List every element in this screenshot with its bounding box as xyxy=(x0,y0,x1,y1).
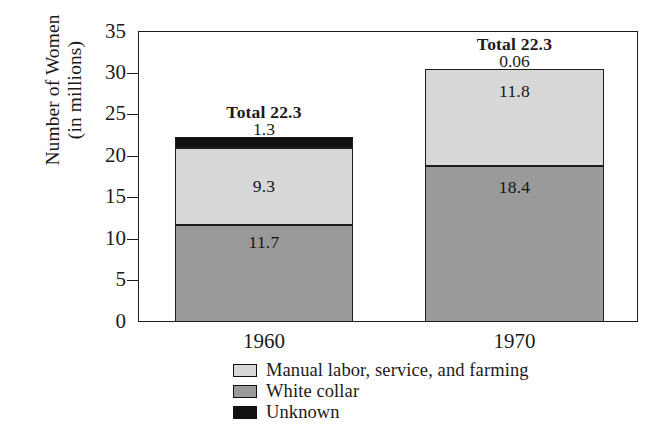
y-tick-5: 5 xyxy=(52,280,126,281)
y-tick-label-15: 15 xyxy=(82,186,126,207)
stacked-bar-1970[interactable]: 11.8 18.4 xyxy=(425,69,604,322)
legend-swatch-white-collar-icon xyxy=(233,385,257,398)
legend-label-manual-labor: Manual labor, service, and farming xyxy=(266,361,529,380)
bar-unknown-value-1970: 0.06 xyxy=(425,52,604,70)
y-tick-label-10: 10 xyxy=(82,228,126,249)
legend-swatch-unknown-icon xyxy=(233,406,257,419)
y-tick-35: 35 xyxy=(52,32,126,33)
stacked-bar-1960[interactable]: 9.3 11.7 xyxy=(175,137,353,322)
chart-legend: Manual labor, service, and farming White… xyxy=(233,360,529,423)
legend-item-unknown[interactable]: Unknown xyxy=(233,402,529,423)
y-tick-label-20: 20 xyxy=(82,145,126,166)
y-tick-20: 20 xyxy=(52,156,126,157)
y-tick-25: 25 xyxy=(52,114,126,115)
bar-segment-manual-label-1970: 11.8 xyxy=(499,83,530,101)
x-tick-label-1970: 1970 xyxy=(425,331,604,352)
y-tick-label-0: 0 xyxy=(82,311,126,332)
bar-segment-white-collar-label-1960: 11.7 xyxy=(249,234,280,252)
bar-segment-white-collar-label-1970: 18.4 xyxy=(499,179,530,197)
bar-segment-manual-1960[interactable]: 9.3 xyxy=(175,148,353,225)
y-tick-10: 10 xyxy=(52,239,126,240)
bar-unknown-value-1960: 1.3 xyxy=(175,120,353,138)
y-tick-label-30: 30 xyxy=(82,62,126,83)
x-tick-label-1960: 1960 xyxy=(175,331,353,352)
bar-segment-manual-1970[interactable]: 11.8 xyxy=(425,69,604,166)
y-tick-label-35: 35 xyxy=(82,21,126,42)
legend-label-unknown: Unknown xyxy=(266,403,340,422)
y-tick-30: 30 xyxy=(52,73,126,74)
y-tick-label-5: 5 xyxy=(82,269,126,290)
legend-swatch-manual-labor-icon xyxy=(233,364,257,377)
bar-segment-white-collar-1970[interactable]: 18.4 xyxy=(425,166,604,322)
y-tick-15: 15 xyxy=(52,197,126,198)
bar-segment-white-collar-1960[interactable]: 11.7 xyxy=(175,225,353,322)
legend-label-white-collar: White collar xyxy=(266,382,359,401)
legend-item-white-collar[interactable]: White collar xyxy=(233,381,529,402)
y-tick-label-25: 25 xyxy=(82,103,126,124)
legend-item-manual-labor[interactable]: Manual labor, service, and farming xyxy=(233,360,529,381)
bar-segment-unknown-1960[interactable] xyxy=(175,137,353,148)
bar-segment-manual-label-1960: 9.3 xyxy=(253,178,275,196)
y-axis-title-line-1: Number of Women xyxy=(42,0,64,220)
y-tick-0: 0 xyxy=(52,322,126,323)
chart-figure: Number of Women (in millions) 35 30 25 2… xyxy=(0,0,669,447)
